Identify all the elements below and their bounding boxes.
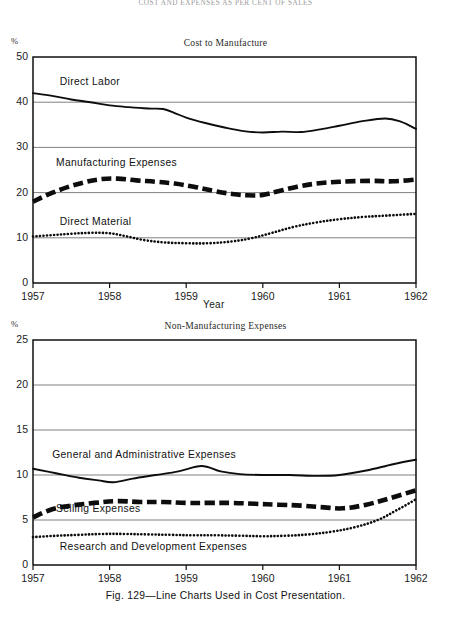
chart2-plot — [0, 0, 451, 618]
plot-frame — [33, 340, 416, 565]
series-line-selling-expenses — [33, 490, 416, 517]
series-line-general-and-administrative-expenses — [33, 460, 416, 483]
figure-caption: Fig. 129—Line Charts Used in Cost Presen… — [0, 590, 451, 601]
